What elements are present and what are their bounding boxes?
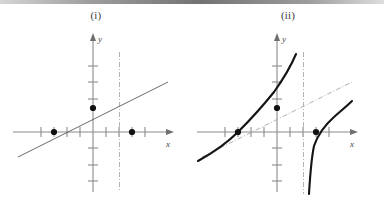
panel-i-point-x-intercept <box>51 129 57 135</box>
y-axis-arrowhead <box>90 33 96 41</box>
panel-ii-x-axis-label: x <box>349 139 354 149</box>
panel-ii-point-x-intercept <box>235 129 241 135</box>
panel-i-x-axis-label: x <box>165 139 170 149</box>
panel-ii-y-axis-label: y <box>281 34 286 44</box>
figure-root: (i) y x <box>0 0 384 215</box>
panel-ii-y-axis: y <box>274 33 286 192</box>
panel-i-y-axis-label: y <box>97 34 102 44</box>
panel-i: (i) y x <box>0 0 192 215</box>
panel-i-y-axis: y <box>90 33 102 192</box>
panel-i-plot: y x <box>0 20 192 210</box>
x-axis-arrowhead <box>350 129 358 135</box>
x-axis-arrowhead <box>166 129 174 135</box>
panel-i-point-marked <box>129 129 135 135</box>
panel-ii-point-marked <box>313 129 319 135</box>
panel-ii-curve-right-branch <box>309 101 352 194</box>
panel-ii-plot: y x <box>192 20 384 210</box>
y-axis-arrowhead <box>274 33 280 41</box>
panel-i-point-y-intercept <box>90 105 96 111</box>
panel-ii: (ii) y x <box>192 0 384 215</box>
panel-ii-curve-left-branch <box>198 54 296 161</box>
panel-ii-point-y-intercept <box>274 105 280 111</box>
